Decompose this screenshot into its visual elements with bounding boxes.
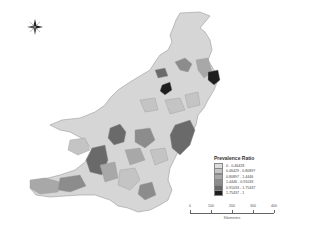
scale-tick xyxy=(190,210,191,213)
map-legend: Prevalence Ratio 0 - 0.46428 0.46429 - 0… xyxy=(214,155,286,196)
legend-item: 1.75437 - 1 xyxy=(214,191,286,197)
north-arrow-icon xyxy=(27,19,43,35)
scale-line xyxy=(190,213,274,214)
legend-title: Prevalence Ratio xyxy=(214,155,286,161)
scale-tick-label: 400 xyxy=(271,204,277,208)
scale-unit: Kilometers xyxy=(187,216,277,220)
scale-tick-label: 300 xyxy=(250,204,256,208)
scale-tick-label: 100 xyxy=(208,204,214,208)
legend-swatch xyxy=(214,190,223,196)
scale-bar: 0 100 200 300 400 Kilometers xyxy=(187,203,277,225)
scale-tick xyxy=(211,210,212,213)
scale-tick xyxy=(274,210,275,213)
scale-tick-label: 0 xyxy=(189,204,191,208)
scale-tick xyxy=(253,210,254,213)
scale-tick-label: 200 xyxy=(229,204,235,208)
scale-tick xyxy=(232,210,233,213)
